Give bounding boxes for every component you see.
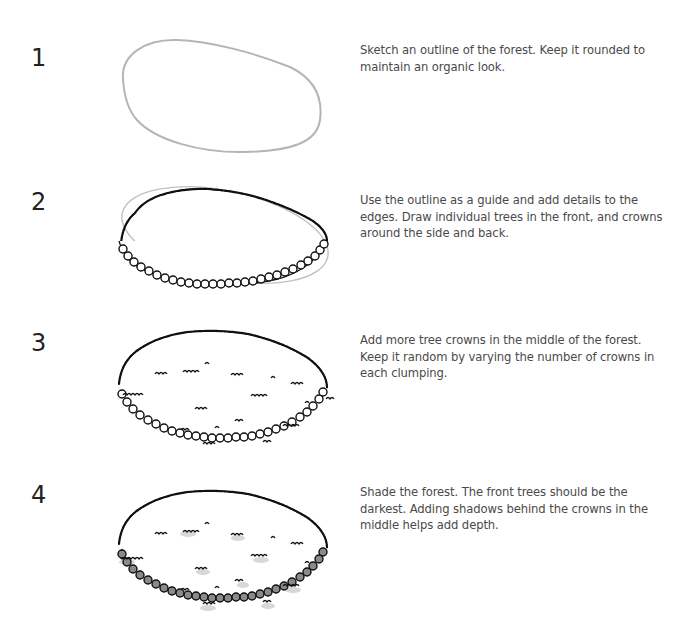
step-description: Shade the forest. The front trees should… (360, 484, 670, 534)
step-description: Use the outline as a guide and add detai… (360, 192, 670, 242)
step-description: Add more tree crowns in the middle of th… (360, 332, 670, 382)
step-number: 4 (31, 483, 46, 507)
shaded-front-trees (118, 548, 327, 602)
forest-edges-illustration (113, 183, 338, 291)
step-number: 3 (31, 331, 46, 355)
forest-outline-sketch-illustration (115, 35, 330, 157)
step-number: 2 (31, 190, 46, 214)
forest-shaded-illustration (113, 482, 338, 612)
step-number: 1 (31, 46, 46, 70)
forest-crowns-illustration (113, 322, 338, 450)
step-description: Sketch an outline of the forest. Keep it… (360, 42, 670, 75)
